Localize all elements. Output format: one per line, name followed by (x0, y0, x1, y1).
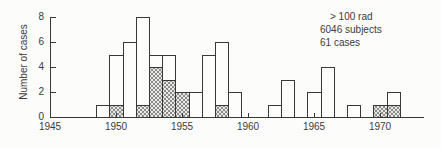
x-tick-label-1950: 1950 (101, 121, 131, 133)
bar-1951 (123, 42, 137, 118)
bar-1950 (109, 55, 124, 118)
x-tick-1955 (182, 113, 183, 117)
bar-1957 (202, 55, 216, 118)
y-tick-label-8: 8 (26, 11, 44, 23)
bar-1954-shaded-segment (163, 80, 175, 117)
annotation-block: > 100 rad 6046 subjects 61 cases (320, 10, 382, 49)
x-tick-1965 (314, 113, 315, 117)
bar-1958 (215, 42, 229, 118)
x-tick-1960 (248, 113, 249, 117)
x-tick-label-1955: 1955 (167, 121, 197, 133)
y-tick-2 (51, 92, 56, 93)
y-tick-label-4: 4 (26, 61, 44, 73)
y-tick-6 (51, 42, 56, 43)
y-tick-4 (51, 67, 56, 68)
bar-1971 (387, 92, 401, 118)
x-tick-1950 (116, 113, 117, 117)
x-tick-label-1970: 1970 (365, 121, 395, 133)
bar-1954 (162, 55, 176, 118)
bar-1956 (189, 92, 203, 118)
x-tick-label-1945: 1945 (35, 121, 65, 133)
annotation-dose: > 100 rad (330, 10, 382, 23)
bar-1959 (228, 92, 242, 118)
bar-1953-shaded-segment (150, 67, 162, 117)
bar-1949 (96, 105, 110, 118)
bar-1963 (281, 80, 295, 118)
y-tick-label-2: 2 (26, 86, 44, 98)
bar-1971-shaded-segment (388, 105, 400, 117)
bar-1968 (347, 105, 361, 118)
bar-1962 (268, 105, 282, 118)
annotation-cases: 61 cases (320, 36, 382, 49)
x-tick-label-1965: 1965 (299, 121, 329, 133)
y-tick-8 (51, 17, 56, 18)
bar-1952-shaded-segment (137, 105, 149, 117)
annotation-subjects: 6046 subjects (320, 23, 382, 36)
y-tick-label-6: 6 (26, 36, 44, 48)
x-tick-label-1960: 1960 (233, 121, 263, 133)
bar-1953 (149, 55, 163, 118)
x-tick-1970 (380, 113, 381, 117)
bar-1952 (136, 17, 150, 118)
bar-1966 (321, 67, 335, 118)
bar-1958-shaded-segment (216, 105, 228, 117)
histogram-figure: Number of cases 024681945195019551960196… (0, 0, 441, 148)
